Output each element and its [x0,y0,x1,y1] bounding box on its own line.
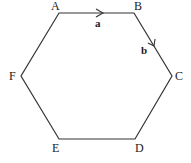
vertex-label-c: C [175,69,183,83]
vertex-label-e: E [52,141,59,155]
vertex-label-b: B [134,0,142,13]
vector-label-a: a [95,17,101,29]
hexagon-diagram: A B C D E F a b [0,0,191,163]
vertex-label-f: F [9,69,16,83]
vertex-label-a: A [51,0,60,13]
vector-label-b: b [141,44,147,56]
hexagon-outline [21,13,172,139]
vertex-label-d: D [135,141,144,155]
